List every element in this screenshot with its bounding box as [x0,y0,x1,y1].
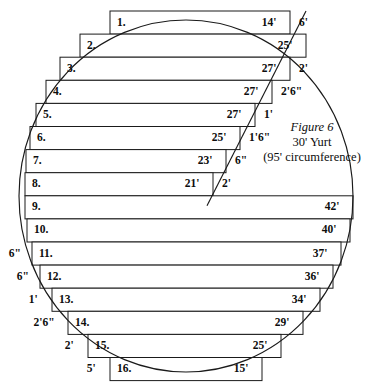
strip-length-9: 42' [325,201,340,213]
fabric-strip-11 [32,242,341,265]
strip-number-10: 10. [34,224,48,236]
strip-number-5: 5. [43,109,52,121]
strip-offset-left-14: 2'6" [34,317,55,329]
strip-length-11: 37' [313,248,328,260]
strip-length-7: 23' [198,155,213,167]
strip-number-6: 6. [37,132,46,144]
strip-offset-right-7: 6" [235,155,247,167]
strip-length-4: 27' [244,86,259,98]
strip-length-8: 21' [185,178,200,190]
fabric-strip-4 [46,80,272,103]
fabric-strip-5 [36,103,255,126]
strip-length-12: 36' [305,271,320,283]
strip-number-12: 12. [47,271,61,283]
strip-offset-left-11: 6" [9,248,21,260]
diagram-canvas [0,0,375,389]
strip-number-2: 2. [87,40,96,52]
strip-length-2: 25' [278,40,293,52]
strip-number-8: 8. [32,178,41,190]
strip-offset-right-4: 2'6" [281,86,302,98]
fabric-strip-12 [40,265,333,288]
figure-6-yurt-diagram: 1.14'6'2.25'3.27'2'4.27'2'6"5.27'1'6.25'… [0,0,375,389]
strip-offset-left-13: 1' [29,294,38,306]
figure-caption: Figure 6 30' Yurt (95' circumference) [250,120,374,165]
strip-offset-right-8: 2' [222,178,231,190]
fabric-strip-14 [68,311,303,334]
strip-number-15: 15. [95,340,109,352]
strip-number-9: 9. [32,201,41,213]
strip-number-14: 14. [75,317,89,329]
strip-number-1: 1. [117,17,126,29]
strip-number-4: 4. [53,86,62,98]
strip-number-7: 7. [33,155,42,167]
strip-offset-left-12: 6" [17,271,29,283]
fabric-strip-3 [60,57,290,80]
strip-length-6: 25' [212,132,227,144]
strip-length-3: 27' [262,63,277,75]
caption-title: Figure 6 [250,120,374,135]
strip-number-16: 16. [117,363,131,375]
fabric-strip-13 [52,288,320,311]
strip-offset-right-3: 2' [299,63,308,75]
fabric-strip-9 [25,196,353,219]
fabric-strip-6 [30,127,240,150]
strip-length-15: 25' [253,340,268,352]
caption-circumference: (95' circumference) [250,150,374,165]
strip-length-16: 15' [234,363,249,375]
strip-length-10: 40' [322,224,337,236]
strip-offset-right-1: 6' [299,17,308,29]
caption-subject: 30' Yurt [250,135,374,150]
strip-offset-left-16: 5' [87,363,96,375]
fabric-strip-10 [27,219,350,242]
strip-length-13: 34' [292,294,307,306]
strip-length-1: 14' [262,17,277,29]
strip-length-14: 29' [275,317,290,329]
strip-number-11: 11. [39,248,53,260]
strip-offset-left-15: 2' [65,340,74,352]
strip-number-13: 13. [59,294,73,306]
fabric-strip-7 [26,150,226,173]
strip-number-3: 3. [67,63,76,75]
strip-length-5: 27' [227,109,242,121]
strip-offset-right-5: 1' [264,109,273,121]
